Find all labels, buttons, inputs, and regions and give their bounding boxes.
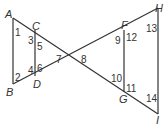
angle-5: 5 xyxy=(37,41,43,52)
angle-9: 9 xyxy=(115,35,121,46)
angle-7: 7 xyxy=(56,54,62,65)
angle-2: 2 xyxy=(15,72,21,83)
point-label-A: A xyxy=(4,8,12,20)
angle-3: 3 xyxy=(28,35,34,46)
point-label-F: F xyxy=(121,19,129,31)
point-label-G: G xyxy=(119,93,128,105)
angle-4: 4 xyxy=(28,65,34,76)
geometry-diagram: A B C D F G H I 1 2 3 4 5 6 7 8 9 10 11 … xyxy=(0,0,164,125)
point-label-C: C xyxy=(32,20,40,32)
angle-10: 10 xyxy=(111,73,123,84)
angle-12: 12 xyxy=(126,32,138,43)
angle-11: 11 xyxy=(126,83,137,94)
angle-1: 1 xyxy=(15,27,21,38)
angle-8: 8 xyxy=(81,54,87,65)
point-label-B: B xyxy=(6,86,13,98)
point-label-D: D xyxy=(33,78,41,90)
point-label-I: I xyxy=(156,114,159,125)
angle-13: 13 xyxy=(146,23,158,34)
angle-14: 14 xyxy=(146,93,158,104)
point-label-H: H xyxy=(155,2,163,14)
angle-6: 6 xyxy=(37,63,43,74)
